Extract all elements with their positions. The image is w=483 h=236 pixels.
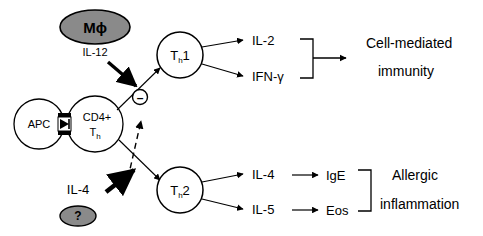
allergic-inflammation-line1: Allergic (392, 167, 438, 183)
il12-label: IL-12 (82, 46, 107, 58)
diagram-canvas: Mϕ IL-12 APC CD4+ Th (0, 0, 483, 236)
allergic-inflammation-line2: inflammation (380, 196, 459, 212)
th2-circle (157, 167, 203, 213)
il4-source-label: IL-4 (67, 182, 89, 197)
th2-to-il5-arrow (202, 199, 243, 209)
cell-mediated-immunity-line1: Cell-mediated (366, 35, 452, 51)
il4-thick-arrow (106, 170, 134, 192)
cell-mediated-immunity-line2: immunity (378, 63, 434, 79)
th2-outcome-bracket (358, 170, 371, 211)
apc-node: APC (14, 99, 64, 149)
eos-label: Eos (326, 203, 349, 218)
tcr-mhc-synapse-icon (58, 113, 71, 135)
th1-circle (157, 32, 203, 78)
cd4-circle (67, 96, 123, 152)
th2-node: Th2 (157, 167, 203, 213)
il2-label: IL-2 (252, 33, 274, 48)
macrophage-node: Mϕ (60, 10, 130, 44)
cd4-label: CD4+ (83, 111, 111, 123)
th1-node: Th1 (157, 32, 203, 78)
ige-label: IgE (326, 168, 346, 183)
cd4-th-node: CD4+ Th (67, 96, 123, 152)
apc-label: APC (28, 118, 51, 130)
unknown-source-node: ? (60, 206, 96, 226)
cd4-to-th2-arrow (119, 140, 160, 180)
th2-to-il4-arrow (202, 174, 243, 182)
inhibition-dashed-arrow (128, 121, 141, 178)
th1-to-ifng-arrow (202, 64, 243, 76)
unknown-source-label: ? (74, 209, 81, 223)
th2-il4-label: IL-4 (252, 167, 274, 182)
minus-circle-icon: – (133, 90, 148, 105)
macrophage-label: Mϕ (83, 19, 107, 36)
il12-arrow (108, 62, 136, 86)
ifng-label: IFN-γ (252, 69, 284, 84)
th1-outcome-bracket (300, 39, 346, 78)
inhibition-symbol: – (137, 91, 144, 105)
immunology-pathway-diagram: Mϕ IL-12 APC CD4+ Th (0, 0, 483, 236)
th1-to-il2-arrow (202, 40, 243, 47)
il5-label: IL-5 (252, 202, 274, 217)
